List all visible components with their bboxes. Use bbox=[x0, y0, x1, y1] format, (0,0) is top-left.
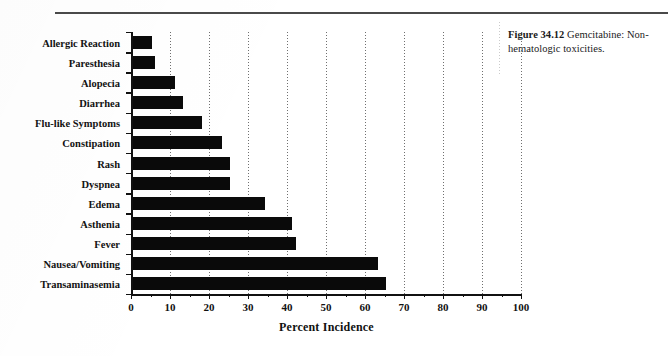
x-axis-tick-major bbox=[404, 294, 405, 299]
y-axis-label: Constipation bbox=[62, 138, 120, 149]
x-axis-tick-major bbox=[521, 294, 522, 299]
y-axis-label: Flu-like Symptoms bbox=[35, 118, 120, 129]
y-axis-tick bbox=[126, 72, 131, 73]
y-axis-line bbox=[131, 32, 133, 294]
gridline bbox=[287, 32, 288, 294]
gridline bbox=[521, 32, 522, 294]
y-axis-label: Asthenia bbox=[80, 219, 120, 230]
y-axis-label: Nausea/Vomiting bbox=[43, 259, 120, 270]
y-axis-tick bbox=[126, 234, 131, 235]
x-axis-tick-major bbox=[131, 294, 132, 299]
bar bbox=[132, 217, 292, 230]
x-axis-tick-minor bbox=[424, 294, 425, 297]
x-axis-tick-label: 50 bbox=[321, 301, 332, 313]
y-axis-label: Fever bbox=[94, 239, 120, 250]
bar bbox=[132, 157, 230, 170]
y-axis-label: Dyspnea bbox=[81, 179, 120, 190]
bar bbox=[132, 56, 155, 69]
x-axis-tick-minor bbox=[502, 294, 503, 297]
y-axis-tick bbox=[126, 92, 131, 93]
x-axis-tick-major bbox=[209, 294, 210, 299]
x-axis-title: Percent Incidence bbox=[131, 320, 522, 335]
y-axis-tick bbox=[126, 254, 131, 255]
x-axis-tick-major bbox=[482, 294, 483, 299]
y-axis-label: Edema bbox=[89, 199, 121, 210]
y-axis-tick bbox=[126, 133, 131, 134]
x-axis-tick-label: 60 bbox=[360, 301, 371, 313]
y-axis-tick bbox=[126, 173, 131, 174]
x-axis-tick-minor bbox=[307, 294, 308, 297]
bar bbox=[132, 96, 183, 109]
x-axis-tick-major bbox=[326, 294, 327, 299]
y-axis-label: Transaminasemia bbox=[40, 279, 120, 290]
gridline bbox=[404, 32, 405, 294]
y-axis-label: Allergic Reaction bbox=[42, 38, 120, 49]
bar bbox=[132, 257, 378, 270]
y-axis-category-labels: Allergic ReactionParesthesiaAlopeciaDiar… bbox=[0, 32, 126, 294]
bar bbox=[132, 116, 202, 129]
x-axis-tick-minor bbox=[229, 294, 230, 297]
gridline bbox=[326, 32, 327, 294]
gridline bbox=[248, 32, 249, 294]
x-axis-tick-major bbox=[287, 294, 288, 299]
x-axis-tick-label: 70 bbox=[399, 301, 410, 313]
x-axis-tick-label: 90 bbox=[477, 301, 488, 313]
y-axis-label: Diarrhea bbox=[79, 98, 120, 109]
x-axis-tick-major bbox=[365, 294, 366, 299]
x-axis-tick-label: 0 bbox=[128, 301, 134, 313]
x-axis-tick-label: 100 bbox=[513, 301, 530, 313]
bar bbox=[132, 136, 222, 149]
x-axis-tick-label: 10 bbox=[165, 301, 176, 313]
plot-area bbox=[131, 32, 521, 294]
y-axis-label: Rash bbox=[97, 159, 120, 170]
x-axis-tick-label: 30 bbox=[243, 301, 254, 313]
y-axis-tick bbox=[126, 213, 131, 214]
x-axis-tick-label: 40 bbox=[282, 301, 293, 313]
bar bbox=[132, 237, 296, 250]
y-axis-tick bbox=[126, 153, 131, 154]
y-axis-tick bbox=[126, 193, 131, 194]
x-axis-tick-major bbox=[248, 294, 249, 299]
y-axis-tick bbox=[126, 32, 131, 33]
x-axis-tick-label: 20 bbox=[204, 301, 215, 313]
bar-chart: Allergic ReactionParesthesiaAlopeciaDiar… bbox=[0, 20, 540, 340]
x-axis-tick-major bbox=[170, 294, 171, 299]
x-axis-tick-minor bbox=[463, 294, 464, 297]
gridline bbox=[365, 32, 366, 294]
bar bbox=[132, 76, 175, 89]
x-axis-tick-minor bbox=[151, 294, 152, 297]
y-axis-label: Alopecia bbox=[81, 78, 120, 89]
x-axis-tick-label: 80 bbox=[438, 301, 449, 313]
bar bbox=[132, 197, 265, 210]
gridline bbox=[443, 32, 444, 294]
x-axis-tick-minor bbox=[346, 294, 347, 297]
bar bbox=[132, 277, 386, 290]
x-axis-tick-minor bbox=[385, 294, 386, 297]
y-axis-tick bbox=[126, 274, 131, 275]
x-axis-tick-major bbox=[443, 294, 444, 299]
gridline bbox=[482, 32, 483, 294]
page-top-rule bbox=[55, 12, 668, 14]
y-axis-tick bbox=[126, 294, 131, 295]
x-axis-tick-minor bbox=[268, 294, 269, 297]
figure-page: Figure 34.12 Gemcitabine: Non-hematologi… bbox=[0, 0, 668, 356]
bar bbox=[132, 177, 230, 190]
x-axis-tick-minor bbox=[190, 294, 191, 297]
bar bbox=[132, 36, 152, 49]
y-axis-label: Paresthesia bbox=[69, 58, 120, 69]
y-axis-tick bbox=[126, 52, 131, 53]
y-axis-tick bbox=[126, 113, 131, 114]
